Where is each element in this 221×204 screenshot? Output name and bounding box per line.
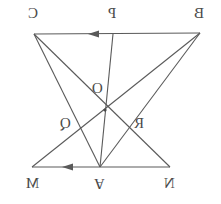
label-M: M	[26, 176, 39, 191]
label-N: N	[164, 176, 175, 191]
label-C: C	[28, 6, 38, 21]
label-Q: Q	[60, 116, 71, 131]
segment-CA	[34, 34, 100, 167]
geometry-figure: C P B O Q R M A N	[0, 0, 221, 204]
label-R: R	[134, 116, 144, 131]
segment-BM	[32, 33, 200, 167]
vertex-point-O	[103, 108, 106, 111]
label-P: P	[108, 6, 116, 21]
label-A: A	[94, 176, 105, 191]
label-O: O	[92, 81, 103, 96]
geometry-canvas	[0, 0, 221, 204]
arrowhead-NM	[62, 163, 73, 170]
segment-BC-top	[34, 33, 200, 34]
arrowhead-BC	[88, 30, 99, 37]
label-B: B	[194, 6, 204, 21]
